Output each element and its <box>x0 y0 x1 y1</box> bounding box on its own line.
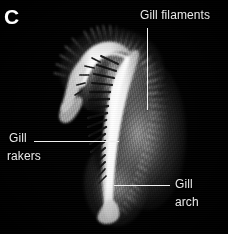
leader-line-gill-arch <box>114 185 170 186</box>
label-gill-rakers-line1: Gill <box>9 132 27 146</box>
panel-letter: C <box>4 6 19 27</box>
annotation-layer: C Gill filaments Gill rakers Gill arch <box>0 0 228 234</box>
figure-panel: C Gill filaments Gill rakers Gill arch <box>0 0 228 234</box>
label-gill-arch-line1: Gill <box>175 178 193 192</box>
leader-line-gill-filaments <box>147 28 148 110</box>
label-gill-rakers-line2: rakers <box>7 150 41 164</box>
leader-line-gill-rakers <box>34 141 119 142</box>
label-gill-filaments: Gill filaments <box>140 9 210 23</box>
label-gill-arch-line2: arch <box>175 196 199 210</box>
